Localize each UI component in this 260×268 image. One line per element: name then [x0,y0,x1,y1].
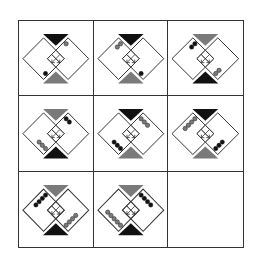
figure [19,21,93,95]
dot-black [67,120,71,124]
dot-black [112,140,116,144]
grid-cell-r1c1 [19,21,94,96]
dot-black [34,202,38,206]
dot-gray [145,123,149,127]
grid-cell-r3c2 [94,172,169,247]
dot-black [43,71,47,75]
puzzle-grid [18,20,244,248]
dot-gray [183,127,187,131]
figure [94,21,168,95]
figure [94,96,168,170]
dot-black [148,202,152,206]
dot-gray [217,68,221,72]
grid-cell-r1c3 [168,21,243,96]
grid-cell-r2c3 [168,96,243,171]
grid-cell-r3c1 [19,172,94,247]
figure [19,96,93,170]
figure [94,172,168,247]
grid-cell-r3c3-empty[interactable] [168,172,243,247]
dot-black [139,71,143,75]
dot-black [190,45,194,49]
dot-gray [64,42,68,46]
figure [168,96,243,170]
dot-gray [37,140,41,144]
grid-cell-r1c2 [94,21,169,96]
grid-cell-r2c1 [19,96,94,171]
dot-black [220,140,224,144]
grid-cell-r2c2 [94,96,169,171]
dot-gray [74,213,78,217]
figure [19,172,93,247]
dot-gray [115,45,119,49]
dot-gray [105,210,109,214]
figure [168,21,243,95]
